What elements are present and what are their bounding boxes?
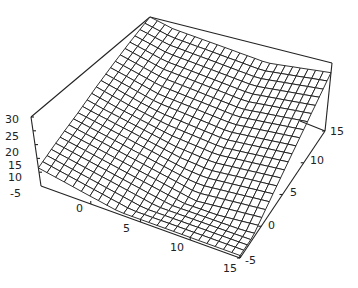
y-tick-10: 10 — [310, 154, 324, 167]
z-tick-30: 30 — [5, 113, 19, 126]
z-tick-10: 10 — [8, 171, 22, 184]
x-tick-start: -5 — [10, 187, 21, 200]
y-tick-5: 5 — [290, 186, 297, 199]
y-tick-neg5: -5 — [245, 254, 256, 267]
x-tick-15: 15 — [223, 262, 237, 275]
surface-mesh — [38, 17, 331, 256]
y-tick-15: 15 — [330, 125, 344, 138]
x-tick-5: 5 — [123, 222, 130, 235]
surface-plot: 30 25 20 15 10 -5 0 5 10 15 -5 0 5 10 15 — [0, 0, 358, 288]
x-tick-0: 0 — [76, 202, 83, 215]
z-tick-20: 20 — [5, 146, 19, 159]
z-tick-25: 25 — [5, 130, 19, 143]
x-tick-10: 10 — [170, 241, 184, 254]
y-tick-0: 0 — [268, 219, 275, 232]
